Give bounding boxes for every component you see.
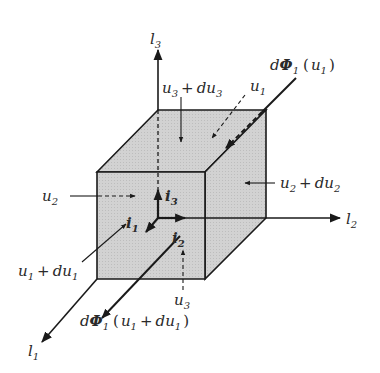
- label-l3: l3: [150, 30, 161, 50]
- label-u3-du3: u3+du3: [162, 79, 222, 99]
- label-l2: l2: [346, 210, 357, 230]
- label-u2-du2: u2+du2: [280, 174, 340, 194]
- label-u1: u1: [250, 77, 266, 97]
- diagram-canvas: l3 l2 l1 i3 i1 i2 u3+du3 u1 dΦ1(u1) u2 u…: [0, 0, 380, 373]
- label-flux-out: dΦ1(u1+du1): [80, 312, 189, 332]
- label-l1: l1: [28, 342, 39, 362]
- label-u2: u2: [42, 187, 58, 207]
- label-flux-in: dΦ1(u1): [270, 56, 335, 76]
- label-u1-du1: u1+du1: [18, 262, 78, 282]
- label-u3: u3: [174, 291, 190, 311]
- axis-l1: [42, 279, 97, 342]
- flux-in-line: [262, 78, 296, 112]
